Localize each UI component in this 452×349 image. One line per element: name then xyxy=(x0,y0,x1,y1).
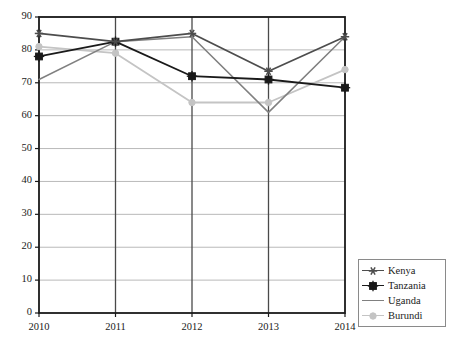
legend-item-uganda[interactable]: Uganda xyxy=(362,293,441,308)
legend-item-tanzania[interactable]: Tanzania xyxy=(362,278,441,293)
legend-item-burundi[interactable]: Burundi xyxy=(362,308,441,323)
y-axis-tick-label: 30 xyxy=(22,207,33,218)
legend-label: Tanzania xyxy=(388,280,426,292)
y-axis-tick-label: 20 xyxy=(22,240,33,251)
x-axis-tick-label: 2011 xyxy=(96,321,136,332)
y-axis-tick-label: 70 xyxy=(22,76,33,87)
data-point-marker-circle xyxy=(342,66,348,72)
data-point-marker-circle xyxy=(265,99,271,105)
legend-swatch-kenya-icon xyxy=(362,265,384,277)
y-axis-tick-label: 60 xyxy=(22,109,33,120)
chart-legend: KenyaTanzaniaUgandaBurundi xyxy=(358,259,446,327)
x-axis-tick-label: 2012 xyxy=(172,321,212,332)
y-axis-tick-label: 80 xyxy=(22,43,33,54)
legend-swatch-tanzania-icon xyxy=(362,280,384,292)
data-point-marker-circle xyxy=(189,99,195,105)
legend-label: Uganda xyxy=(388,295,421,307)
line-chart: 0102030405060708090 20102011201220132014… xyxy=(0,0,452,349)
y-axis-tick-label: 0 xyxy=(27,306,32,317)
legend-marker-plus-square-icon xyxy=(367,280,379,292)
legend-swatch-uganda-icon xyxy=(362,295,384,307)
y-axis-tick-label: 40 xyxy=(22,174,33,185)
y-axis-tick-label: 10 xyxy=(22,273,33,284)
legend-label: Burundi xyxy=(388,310,422,322)
data-point-marker-circle xyxy=(36,43,42,49)
x-axis-tick-label: 2013 xyxy=(249,321,289,332)
y-axis-tick-label: 50 xyxy=(22,142,33,153)
legend-marker-circle-icon xyxy=(367,310,379,322)
legend-marker-star-icon xyxy=(367,265,379,277)
legend-item-kenya[interactable]: Kenya xyxy=(362,263,441,278)
x-axis-tick-label: 2010 xyxy=(19,321,59,332)
data-point-marker-circle xyxy=(112,50,118,56)
legend-label: Kenya xyxy=(388,265,415,277)
data-point-marker-circle xyxy=(370,312,376,318)
y-axis-tick-label: 90 xyxy=(22,10,33,21)
legend-swatch-burundi-icon xyxy=(362,310,384,322)
